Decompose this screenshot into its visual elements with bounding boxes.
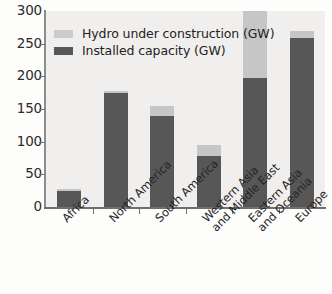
y-axis-tick-label: 50 <box>4 167 42 181</box>
y-axis-tick-label: 100 <box>4 135 42 149</box>
y-axis-tick-mark <box>39 109 45 110</box>
y-axis-tick-mark <box>39 44 45 45</box>
legend-swatch-light <box>54 30 73 38</box>
legend-item: Hydro under construction (GW) <box>54 26 269 41</box>
bar-segment-under-construction <box>197 145 221 156</box>
x-axis-category-labels: AfricaNorth AmericaSouth AmericaWestern … <box>0 209 332 294</box>
y-axis-tick-label: 250 <box>4 37 42 51</box>
y-axis-tick-mark <box>39 142 45 143</box>
legend-swatch-dark <box>54 47 73 55</box>
legend-item: Installed capacity (GW) <box>54 43 269 58</box>
legend-label: Hydro under construction (GW) <box>82 26 274 41</box>
bar-segment-installed <box>104 93 128 207</box>
bar-north-america <box>104 91 128 207</box>
y-axis-tick-label: 300 <box>4 4 42 18</box>
y-axis-tick-mark <box>39 174 45 175</box>
y-axis-tick-mark <box>39 76 45 77</box>
hydro-capacity-bar-chart: 300250200150100500 Hydro under construct… <box>0 0 332 294</box>
y-axis-tick-label: 150 <box>4 102 42 116</box>
chart-legend: Hydro under construction (GW)Installed c… <box>54 26 269 60</box>
bar-south-america <box>150 106 174 207</box>
legend-label: Installed capacity (GW) <box>82 43 225 58</box>
y-axis-tick-label: 200 <box>4 69 42 83</box>
bar-segment-under-construction <box>290 31 314 39</box>
bar-segment-under-construction <box>150 106 174 116</box>
